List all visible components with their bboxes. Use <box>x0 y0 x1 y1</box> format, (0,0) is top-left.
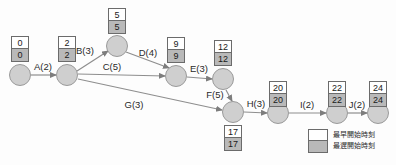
edge-label-f: F(5) <box>206 89 223 100</box>
edge-label-g: G(3) <box>125 99 144 110</box>
legend-label-latest-start: 最遅開始時刻 <box>333 140 375 151</box>
time-box-n2: 22 <box>58 36 76 62</box>
edge-label-j: J(2) <box>349 99 365 110</box>
time-box-n4: 99 <box>167 37 185 63</box>
time-box-n8: 2222 <box>328 81 346 107</box>
time-box-n5: 1212 <box>214 40 232 66</box>
edge-e <box>187 77 212 79</box>
latest-start-n4: 9 <box>168 50 184 62</box>
legend-swatches <box>308 129 328 153</box>
edge-label-d: D(4) <box>139 47 157 58</box>
latest-start-n8: 22 <box>329 94 345 106</box>
edge-label-i: I(2) <box>300 99 314 110</box>
legend: 最早開始時刻 最遅開始時刻 <box>308 129 375 153</box>
edge-label-h: H(3) <box>247 98 265 109</box>
latest-start-n1: 0 <box>12 49 28 61</box>
node-n4[interactable] <box>165 65 187 87</box>
earliest-start-n4: 9 <box>168 38 184 50</box>
edge-h <box>244 112 267 113</box>
earliest-start-n6: 17 <box>225 126 241 138</box>
latest-start-n7: 20 <box>270 94 286 106</box>
legend-label-earliest-start: 最早開始時刻 <box>333 129 375 140</box>
edge-label-e: E(3) <box>190 63 208 74</box>
edge-f <box>226 90 232 101</box>
earliest-start-n8: 22 <box>329 82 345 94</box>
latest-start-n9: 24 <box>370 94 386 106</box>
edge-label-c: C(5) <box>103 61 121 72</box>
legend-labels: 最早開始時刻 最遅開始時刻 <box>333 129 375 151</box>
time-box-n7: 2020 <box>269 81 287 107</box>
node-n6[interactable] <box>222 101 244 123</box>
edge-g <box>78 79 222 110</box>
earliest-start-n9: 24 <box>370 82 386 94</box>
latest-start-n6: 17 <box>225 138 241 150</box>
latest-start-n3: 5 <box>109 21 125 33</box>
time-box-n6: 1717 <box>224 125 242 151</box>
edge-label-b: B(3) <box>76 45 94 56</box>
legend-swatch-latest-start <box>309 141 327 152</box>
time-box-n9: 2424 <box>369 81 387 107</box>
node-n2[interactable] <box>56 64 78 86</box>
earliest-start-n7: 20 <box>270 82 286 94</box>
node-n1[interactable] <box>9 64 31 86</box>
earliest-start-n5: 12 <box>215 41 231 53</box>
time-box-n1: 00 <box>11 36 29 62</box>
node-n5[interactable] <box>212 68 234 90</box>
node-n3[interactable] <box>106 35 128 57</box>
legend-swatch-earliest-start <box>309 130 327 141</box>
earliest-start-n1: 0 <box>12 37 28 49</box>
earliest-start-n3: 5 <box>109 9 125 21</box>
network-diagram-canvas: 0022559912121717202022222424 A(2)B(3)C(5… <box>0 0 396 165</box>
edge-c <box>78 74 165 76</box>
edge-label-a: A(2) <box>34 61 52 72</box>
latest-start-n5: 12 <box>215 53 231 65</box>
latest-start-n2: 2 <box>59 49 75 61</box>
time-box-n3: 55 <box>108 8 126 34</box>
earliest-start-n2: 2 <box>59 37 75 49</box>
edge-lines-group <box>31 51 367 113</box>
